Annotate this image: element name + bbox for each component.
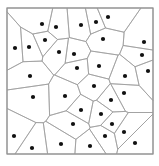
seed-point [140,53,144,57]
seed-point [54,25,58,29]
seed-point [99,112,103,116]
seed-point [79,108,83,112]
seed-point [110,122,114,126]
seed-point [142,40,146,44]
seed-point [123,74,127,78]
seed-point [40,22,44,26]
seed-point [101,37,105,41]
seed-point [31,95,35,99]
seed-point [71,122,75,126]
seed-point [75,66,79,70]
seed-point [106,15,110,19]
seed-point [88,144,92,148]
seed-point [63,94,67,98]
seed-point [13,46,17,50]
seed-point [146,69,150,73]
seed-point [97,64,101,68]
seed-point [122,91,126,95]
seed-point [43,38,47,42]
voronoi-diagram [0,0,159,166]
seed-point [122,130,126,134]
seed-point [12,134,16,138]
seed-point [103,134,107,138]
diagram-frame [7,8,153,154]
seed-point [94,20,98,24]
seed-point [79,23,83,27]
seed-point [57,50,61,54]
seed-point [28,74,32,78]
seed-point [109,98,113,102]
seed-point [59,142,63,146]
seed-point [27,45,31,49]
seed-point [72,52,76,56]
seed-point [133,141,137,145]
seed-point [30,146,34,150]
seed-point [92,84,96,88]
